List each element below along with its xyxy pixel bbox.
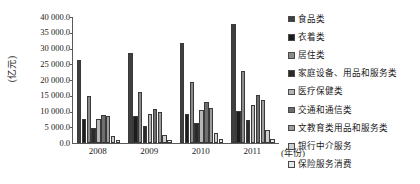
legend-item[interactable]: 家庭设备、用品和服务类 bbox=[288, 65, 420, 83]
plot-area bbox=[72, 17, 279, 144]
bar bbox=[209, 108, 213, 143]
y-axis-tick-mark bbox=[70, 96, 73, 97]
legend-swatch-icon bbox=[288, 16, 295, 23]
x-axis-tick-label: 2010 bbox=[179, 146, 223, 160]
legend-swatch-icon bbox=[288, 125, 295, 132]
bar-group bbox=[77, 17, 121, 143]
legend-item-label: 家庭设备、用品和服务类 bbox=[298, 69, 397, 78]
legend-swatch-icon bbox=[288, 70, 295, 77]
bar-groups bbox=[73, 17, 279, 143]
bar bbox=[148, 114, 152, 143]
x-axis-tick-labels: 2008200920102011 bbox=[72, 146, 278, 160]
bar bbox=[199, 110, 203, 143]
legend: 食品类衣着类居住类家庭设备、用品和服务类医疗保健类交通和通信类文教育类用品和服务… bbox=[288, 10, 420, 174]
y-axis-tick-mark bbox=[70, 49, 73, 50]
y-axis-tick-mark bbox=[70, 80, 73, 81]
bar bbox=[270, 139, 274, 143]
y-axis-tick-mark bbox=[70, 64, 73, 65]
y-axis-title: (亿元) bbox=[4, 46, 18, 92]
bar bbox=[236, 111, 240, 143]
bar bbox=[91, 128, 95, 143]
bar bbox=[133, 116, 137, 143]
bar bbox=[153, 109, 157, 143]
bar bbox=[106, 116, 110, 143]
bar bbox=[214, 133, 218, 143]
legend-swatch-icon bbox=[288, 143, 295, 150]
bar-group bbox=[128, 17, 172, 143]
legend-item-label: 文教育类用品和服务类 bbox=[298, 124, 388, 133]
bar bbox=[219, 139, 223, 143]
bar bbox=[101, 115, 105, 143]
bar bbox=[116, 140, 120, 143]
y-axis-tick-label: 40 000.0 bbox=[18, 13, 70, 22]
legend-item[interactable]: 医疗保健类 bbox=[288, 83, 420, 101]
legend-item-label: 居住类 bbox=[298, 51, 325, 60]
bar bbox=[77, 60, 81, 143]
bar bbox=[261, 100, 265, 143]
bar bbox=[87, 96, 91, 143]
bar bbox=[138, 92, 142, 143]
bar-chart: (亿元) 40 000.035 000.030 000.025 000.020 … bbox=[0, 0, 420, 184]
bar bbox=[128, 53, 132, 143]
bar bbox=[246, 120, 250, 143]
legend-item-label: 银行中介服务 bbox=[298, 142, 352, 151]
legend-item-label: 交通和通信类 bbox=[298, 106, 352, 115]
legend-swatch-icon bbox=[288, 52, 295, 59]
y-axis-tick-label: 15 000.0 bbox=[18, 91, 70, 100]
bar bbox=[158, 112, 162, 143]
x-axis-tick-label: 2009 bbox=[127, 146, 171, 160]
bar bbox=[167, 140, 171, 143]
y-axis-tick-mark bbox=[70, 33, 73, 34]
y-axis-tick-label: 25 000.0 bbox=[18, 60, 70, 69]
legend-item[interactable]: 文教育类用品和服务类 bbox=[288, 119, 420, 137]
bar bbox=[185, 114, 189, 143]
y-axis-tick-label: 5 000.0 bbox=[18, 123, 70, 132]
legend-swatch-icon bbox=[288, 34, 295, 41]
legend-item[interactable]: 保险服务消费 bbox=[288, 156, 420, 174]
y-axis-tick-label: 20 000.0 bbox=[18, 76, 70, 85]
bar-group bbox=[231, 17, 275, 143]
legend-item[interactable]: 食品类 bbox=[288, 10, 420, 28]
y-axis-tick-mark bbox=[70, 112, 73, 113]
legend-swatch-icon bbox=[288, 89, 295, 96]
y-axis-tick-label: 30 000.0 bbox=[18, 44, 70, 53]
y-axis-tick-mark bbox=[70, 127, 73, 128]
bar bbox=[143, 126, 147, 143]
x-axis-tick-label: 2008 bbox=[76, 146, 120, 160]
bar bbox=[162, 135, 166, 144]
y-axis-tick-label: 35 000.0 bbox=[18, 28, 70, 37]
bar bbox=[231, 24, 235, 143]
legend-item-label: 食品类 bbox=[298, 15, 325, 24]
bar bbox=[190, 82, 194, 143]
y-axis-tick-label: 0.0 bbox=[18, 139, 70, 148]
y-axis-tick-labels: 40 000.035 000.030 000.025 000.020 000.0… bbox=[18, 11, 70, 143]
bar bbox=[82, 119, 86, 143]
bar bbox=[241, 71, 245, 143]
legend-item[interactable]: 居住类 bbox=[288, 46, 420, 64]
bar bbox=[194, 123, 198, 143]
legend-item-label: 衣着类 bbox=[298, 33, 325, 42]
x-axis-tick-label: 2011 bbox=[230, 146, 274, 160]
bar-group bbox=[180, 17, 224, 143]
bar bbox=[265, 130, 269, 143]
bar bbox=[251, 105, 255, 143]
bar bbox=[111, 136, 115, 143]
legend-item[interactable]: 衣着类 bbox=[288, 28, 420, 46]
bar bbox=[96, 119, 100, 143]
legend-item-label: 医疗保健类 bbox=[298, 87, 343, 96]
y-axis-tick-mark bbox=[70, 17, 73, 18]
legend-item-label: 保险服务消费 bbox=[298, 160, 352, 169]
legend-swatch-icon bbox=[288, 161, 295, 168]
legend-item[interactable]: 银行中介服务 bbox=[288, 137, 420, 155]
bar bbox=[256, 95, 260, 143]
y-axis-tick-label: 10 000.0 bbox=[18, 107, 70, 116]
legend-item[interactable]: 交通和通信类 bbox=[288, 101, 420, 119]
bar bbox=[204, 102, 208, 143]
legend-swatch-icon bbox=[288, 107, 295, 114]
bar bbox=[180, 43, 184, 143]
